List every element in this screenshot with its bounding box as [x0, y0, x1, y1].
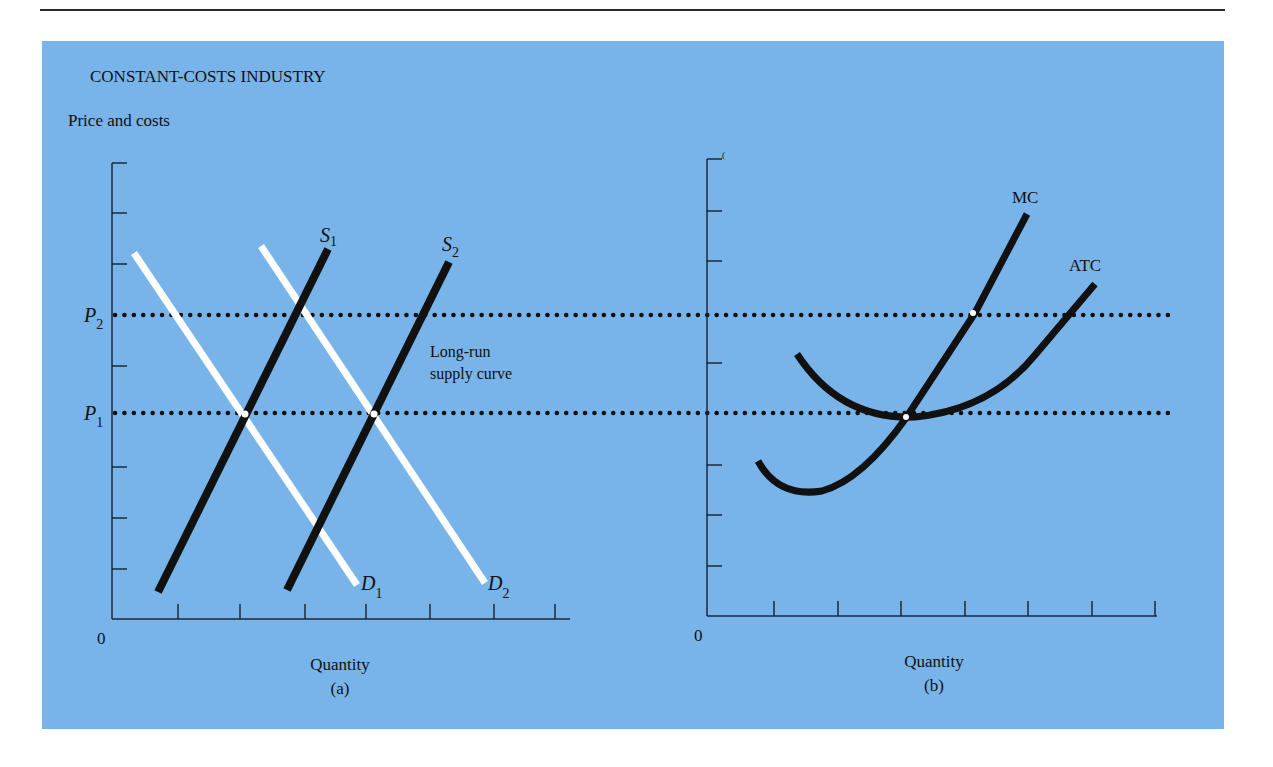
atc-label: ATC [1069, 256, 1101, 275]
y-axis-label: Price and costs [68, 111, 170, 130]
axis-stray-mark: ( [722, 150, 725, 160]
d2-label: D2 [487, 572, 509, 601]
panel-a-y-ticks [112, 163, 127, 569]
s1-label: S1 [320, 224, 337, 249]
equilibrium-point-1 [242, 411, 249, 418]
figure-title: CONSTANT-COSTS INDUSTRY [90, 67, 326, 86]
s2-curve [287, 262, 449, 590]
d1-label: D1 [360, 572, 382, 601]
long-run-annotation-line1: Long-run [430, 343, 490, 361]
p1-label: P1 [83, 402, 103, 430]
panel-b: ( MC ATC 0 Quantity (b) [694, 150, 1157, 695]
atc-curve [797, 284, 1095, 417]
panel-b-caption: (b) [924, 676, 944, 695]
mc-curve [758, 214, 1027, 492]
panel-b-x-ticks [774, 601, 1155, 616]
s1-curve [158, 249, 328, 592]
mc-label: MC [1012, 188, 1038, 207]
p2-label: P2 [83, 304, 103, 332]
panel-a-x-label: Quantity [310, 655, 370, 674]
panel-b-x-label: Quantity [904, 652, 964, 671]
panel-b-y-ticks [707, 159, 722, 566]
panel-a: P2 P1 S1 S2 D1 D2 Long-run supply curve … [83, 163, 570, 698]
mc-atc-intersection-point [903, 414, 909, 420]
mc-p2-point [970, 310, 976, 316]
panel-a-origin-label: 0 [97, 629, 106, 648]
panel-b-origin-label: 0 [694, 626, 703, 645]
long-run-annotation-line2: supply curve [430, 365, 512, 383]
equilibrium-point-2 [371, 411, 378, 418]
figure-canvas: CONSTANT-COSTS INDUSTRY Price and costs [0, 0, 1273, 767]
panel-a-x-ticks [178, 604, 555, 619]
s2-label: S2 [442, 233, 459, 260]
panel-a-caption: (a) [331, 679, 350, 698]
